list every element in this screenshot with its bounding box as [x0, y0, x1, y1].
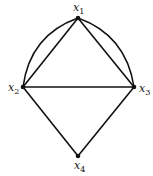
node-x4: [76, 154, 81, 159]
node-x2: [21, 85, 26, 90]
label-x4-sub: 4: [80, 165, 85, 174]
label-x3: x3: [139, 83, 150, 97]
edge-x3-x4: [78, 87, 134, 156]
label-x2-sub: 2: [14, 87, 19, 96]
label-x1-sub: 1: [79, 7, 84, 16]
node-x3: [132, 85, 137, 90]
edge-x2-x4: [23, 87, 78, 156]
label-x3-sub: 3: [145, 88, 150, 97]
label-x2: x2: [8, 82, 19, 96]
label-x1: x1: [73, 2, 84, 16]
node-x1: [76, 16, 81, 21]
graph-diagram: x1 x2 x3 x4: [0, 0, 153, 176]
edge-x1-x2: [23, 18, 78, 87]
graph-edges: [0, 0, 153, 176]
label-x4: x4: [74, 160, 85, 174]
edge-x1-x3: [78, 18, 134, 87]
